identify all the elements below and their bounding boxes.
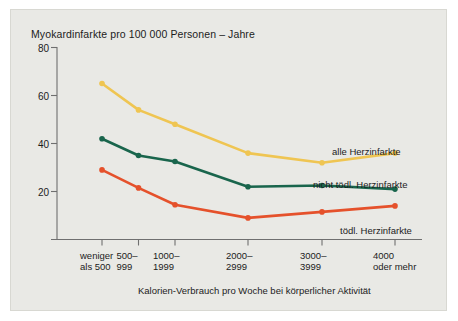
x-axis-title: Kalorien-Verbrauch pro Woche bei körperl… (138, 285, 371, 296)
series-data-point (136, 107, 142, 113)
x-axis-tick-label: 3000–3999 (300, 250, 326, 272)
series-data-point (319, 209, 325, 215)
series-data-point (99, 167, 105, 173)
y-axis-tick-label: 80 (27, 42, 49, 53)
series-label-3: tödl. Herzinfarkte (340, 225, 412, 236)
series-data-point (245, 215, 251, 221)
chart-series-3 (99, 167, 398, 221)
x-axis-tick-label: wenigerals 500 (80, 250, 113, 272)
series-label-2: nicht tödl. Herzinfarkte (313, 179, 408, 190)
series-data-point (99, 81, 105, 87)
y-axis-tick-label: 20 (27, 186, 49, 197)
y-axis-ticks (51, 48, 57, 192)
y-axis-tick-label: 40 (27, 138, 49, 149)
x-axis-tick-label: 1000–1999 (153, 250, 179, 272)
chart-figure: Myokardinfarkte pro 100 000 Personen – J… (10, 9, 447, 311)
x-axis-tick-label: 2000–2999 (226, 250, 252, 272)
y-axis-tick-label: 60 (27, 90, 49, 101)
series-label-1: alle Herzinfarkte (332, 146, 401, 157)
series-data-point (172, 159, 178, 165)
series-data-point (319, 160, 325, 166)
series-data-point (136, 153, 142, 159)
series-data-point (245, 184, 251, 190)
series-data-point (99, 136, 105, 142)
series-data-point (245, 150, 251, 156)
x-axis-tick-label: 4000oder mehr (373, 250, 416, 272)
series-line (102, 170, 395, 218)
x-axis-tick-label: 500–999 (117, 250, 138, 272)
x-axis-ticks (102, 240, 395, 246)
series-data-point (136, 185, 142, 191)
series-data-point (172, 122, 178, 128)
series-data-point (392, 203, 398, 209)
series-data-point (172, 202, 178, 208)
